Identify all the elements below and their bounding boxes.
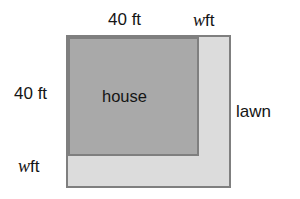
dimension-label-top-width: 40 ft bbox=[108, 11, 141, 28]
dimension-label-left-height: 40 ft bbox=[14, 85, 47, 102]
unit-ft-top: ft bbox=[205, 11, 214, 30]
unit-ft-bottom: ft bbox=[30, 157, 39, 176]
variable-w-bottom: w bbox=[18, 156, 30, 176]
variable-w-top: w bbox=[193, 10, 205, 30]
house-label: house bbox=[102, 88, 147, 105]
lawn-label: lawn bbox=[236, 103, 271, 120]
dimension-label-bottom-w: wft bbox=[18, 157, 39, 175]
house-lawn-diagram: 40 ft wft 40 ft wft lawn house bbox=[0, 0, 300, 199]
dimension-label-top-w: wft bbox=[193, 11, 214, 29]
